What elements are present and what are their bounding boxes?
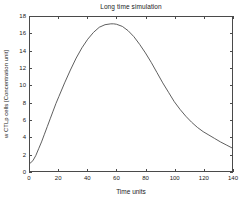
chart-title: Long time simulation xyxy=(29,2,233,11)
y-tick-mark-right xyxy=(230,68,233,69)
series-polyline xyxy=(30,24,232,163)
y-axis-label-wrap: w CTLp cells [Concentration unit] xyxy=(0,16,12,172)
y-axis-label: w CTLp cells [Concentration unit] xyxy=(3,50,10,138)
x-tick-label: 120 xyxy=(199,175,209,182)
x-tick-mark xyxy=(204,169,205,172)
x-tick-mark-top xyxy=(233,16,234,19)
x-tick-label: 20 xyxy=(55,175,62,182)
y-tick-mark xyxy=(29,137,32,138)
x-tick-label: 40 xyxy=(84,175,91,182)
x-tick-mark xyxy=(146,169,147,172)
y-tick-mark xyxy=(29,85,32,86)
y-tick-mark-right xyxy=(230,16,233,17)
y-tick-mark-right xyxy=(230,155,233,156)
y-tick-mark-right xyxy=(230,103,233,104)
x-tick-label: 0 xyxy=(27,175,30,182)
chart-figure: Long time simulation 020406080100120140 … xyxy=(0,0,246,201)
y-tick-mark-right xyxy=(230,172,233,173)
plot-area xyxy=(29,16,233,172)
y-tick-mark xyxy=(29,68,32,69)
x-tick-mark-top xyxy=(87,16,88,19)
x-tick-mark-top xyxy=(204,16,205,19)
x-tick-mark-top xyxy=(146,16,147,19)
y-tick-mark xyxy=(29,51,32,52)
y-tick-mark-right xyxy=(230,85,233,86)
x-tick-mark xyxy=(175,169,176,172)
x-tick-label: 80 xyxy=(142,175,149,182)
x-tick-label: 100 xyxy=(170,175,180,182)
x-axis-label: Time units xyxy=(29,188,233,196)
y-tick-mark xyxy=(29,103,32,104)
x-tick-label: 60 xyxy=(113,175,120,182)
y-tick-mark xyxy=(29,16,32,17)
x-tick-mark xyxy=(58,169,59,172)
x-tick-label: 140 xyxy=(228,175,238,182)
line-series-svg xyxy=(30,17,232,171)
y-tick-mark-right xyxy=(230,120,233,121)
y-tick-mark-right xyxy=(230,137,233,138)
y-tick-mark-right xyxy=(230,51,233,52)
x-tick-mark xyxy=(233,169,234,172)
x-tick-mark xyxy=(116,169,117,172)
y-tick-mark xyxy=(29,155,32,156)
x-tick-mark-top xyxy=(58,16,59,19)
x-tick-mark xyxy=(87,169,88,172)
y-tick-mark xyxy=(29,120,32,121)
y-tick-mark xyxy=(29,33,32,34)
x-tick-mark-top xyxy=(116,16,117,19)
y-tick-mark-right xyxy=(230,33,233,34)
x-tick-mark-top xyxy=(175,16,176,19)
y-tick-mark xyxy=(29,172,32,173)
